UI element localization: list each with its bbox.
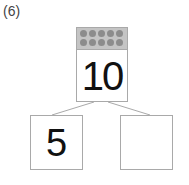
counter-dot xyxy=(98,39,105,46)
whole-box: 10 xyxy=(76,27,128,102)
counter-dot xyxy=(89,30,96,37)
counter-dot xyxy=(116,39,123,46)
part-box-left: 5 xyxy=(30,115,83,170)
connector-left xyxy=(52,102,94,115)
counter-dot xyxy=(107,30,114,37)
counter-dot xyxy=(116,30,123,37)
part-box-right-answer[interactable] xyxy=(120,115,173,170)
counter-dot xyxy=(80,30,87,37)
counter-dot xyxy=(107,39,114,46)
counter-dot xyxy=(89,39,96,46)
ten-frame-dots xyxy=(77,28,127,50)
whole-number: 10 xyxy=(77,54,127,98)
counter-dot xyxy=(98,30,105,37)
part-number-left: 5 xyxy=(31,121,82,165)
counter-dot xyxy=(80,39,87,46)
connector-right xyxy=(108,102,150,115)
